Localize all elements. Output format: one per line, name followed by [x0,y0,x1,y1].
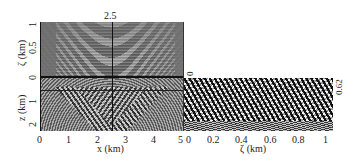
zeta-tick-0.2: 0.2 [207,135,220,145]
right-panel-side-annotation: 0.62 [334,79,344,95]
top-ytick-0.5: 0.5 [28,42,38,55]
top-panel-right-edge [175,22,183,77]
left-axis-line [40,22,41,131]
zeta-tick-0: 0 [186,135,191,145]
right-panel-image [183,78,333,131]
right-panel-bottom-band [183,121,333,131]
zeta-tick-0.8: 0.8 [292,135,305,145]
right-panel-top-tick: 0 [185,72,195,77]
zeta-axis-label: ζ (km) [240,144,266,154]
zeta-zero-line [40,76,183,78]
bottom-ylabel: z (km) [17,95,27,121]
bottom-ytick-2: 2 [28,122,38,127]
crosshair-x-annotation: 2.5 [104,11,117,21]
x-tick-4: 4 [151,135,156,145]
x-tick-1: 1 [66,135,71,145]
top-ytick-1: 1 [28,22,38,27]
top-panel-left-edge [40,22,56,77]
panel-divider-line [183,22,184,131]
top-ylabel: ζ (km) [17,40,27,66]
x-axis-label: x (km) [97,144,124,154]
x-tick-0: 0 [37,135,42,145]
crosshair-horizontal-line [40,90,183,91]
x-tick-5: 5 [178,135,183,145]
zeta-tick-1: 1 [323,135,328,145]
top-ytick-0: 0 [28,75,38,80]
bottom-ytick-1: 1 [28,99,38,104]
